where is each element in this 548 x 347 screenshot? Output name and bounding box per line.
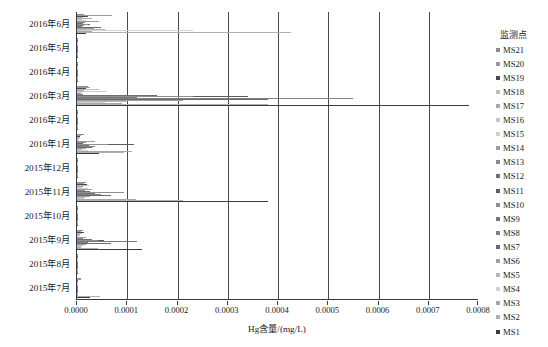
bar-group	[77, 12, 478, 36]
legend-swatch-icon	[496, 118, 500, 122]
legend-item[interactable]: MS4	[496, 284, 520, 295]
legend-item-label: MS15	[503, 129, 524, 139]
legend-item[interactable]: MS21	[496, 44, 524, 55]
legend-swatch-icon	[496, 330, 500, 334]
legend: 监测点 MS21MS20MS19MS18MS17MS16MS15MS14MS13…	[492, 28, 548, 340]
legend-title: 监测点	[500, 28, 527, 41]
legend-item[interactable]: MS18	[496, 86, 524, 97]
y-axis-label: 2015年11月	[25, 187, 70, 197]
y-axis-label: 2015年10月	[24, 211, 70, 221]
legend-item-label: MS4	[503, 284, 520, 294]
legend-item-label: MS1	[503, 327, 520, 337]
legend-item[interactable]: MS2	[496, 312, 520, 323]
bar-group	[77, 36, 478, 60]
legend-swatch-icon	[496, 62, 500, 66]
legend-item-label: MS9	[503, 214, 520, 224]
legend-item-label: MS2	[503, 312, 520, 322]
bar-group	[77, 156, 478, 180]
y-axis-label: 2016年2月	[29, 115, 70, 125]
plot-area	[76, 12, 478, 300]
legend-swatch-icon	[496, 160, 500, 164]
legend-item[interactable]: MS8	[496, 227, 520, 238]
legend-item[interactable]: MS1	[496, 326, 520, 337]
legend-item-label: MS5	[503, 270, 520, 280]
legend-item[interactable]: MS6	[496, 256, 520, 267]
legend-item-label: MS18	[503, 87, 524, 97]
legend-item-label: MS14	[503, 143, 524, 153]
legend-item-label: MS8	[503, 228, 520, 238]
bar-group	[77, 180, 478, 204]
bar-group	[77, 276, 478, 300]
legend-swatch-icon	[496, 48, 500, 52]
legend-item-label: MS3	[503, 298, 520, 308]
legend-item[interactable]: MS9	[496, 213, 520, 224]
legend-swatch-icon	[496, 90, 500, 94]
legend-item[interactable]: MS14	[496, 143, 524, 154]
bar	[77, 32, 291, 33]
x-tick-label: 0.0005	[315, 305, 339, 315]
bar	[77, 33, 86, 34]
bar	[77, 297, 90, 298]
legend-item-label: MS17	[503, 101, 524, 111]
legend-swatch-icon	[496, 104, 500, 108]
bar	[77, 153, 99, 154]
bar-group	[77, 108, 478, 132]
legend-item-label: MS7	[503, 242, 520, 252]
legend-item[interactable]: MS7	[496, 241, 520, 252]
y-axis-category-labels: 2016年6月2016年5月2016年4月2016年3月2016年2月2016年…	[0, 12, 74, 300]
legend-item[interactable]: MS15	[496, 129, 524, 140]
bar-group	[77, 60, 478, 84]
legend-item[interactable]: MS20	[496, 58, 524, 69]
legend-swatch-icon	[496, 146, 500, 150]
y-axis-label: 2016年5月	[29, 43, 70, 53]
hg-content-bar-chart: 2016年6月2016年5月2016年4月2016年3月2016年2月2016年…	[0, 0, 548, 347]
x-tick-label: 0.0002	[165, 305, 189, 315]
bar-group	[77, 252, 478, 276]
legend-swatch-icon	[496, 301, 500, 305]
legend-swatch-icon	[496, 259, 500, 263]
x-tick-label: 0.0008	[466, 305, 490, 315]
legend-item[interactable]: MS16	[496, 115, 524, 126]
legend-swatch-icon	[496, 315, 500, 319]
legend-swatch-icon	[496, 245, 500, 249]
y-axis-label: 2016年1月	[29, 139, 70, 149]
x-tick-label: 0.0004	[265, 305, 289, 315]
bar	[77, 105, 469, 106]
legend-swatch-icon	[496, 231, 500, 235]
legend-swatch-icon	[496, 273, 500, 277]
x-axis-ticks: 0.00000.00010.00020.00030.00040.00050.00…	[76, 301, 478, 315]
y-axis-label: 2015年8月	[29, 259, 70, 269]
legend-item-label: MS10	[503, 200, 524, 210]
x-axis-title: Hg含量/(mg/L)	[76, 321, 478, 335]
legend-swatch-icon	[496, 287, 500, 291]
bar	[77, 201, 268, 202]
legend-swatch-icon	[496, 132, 500, 136]
y-axis-label: 2016年4月	[29, 67, 70, 77]
legend-item-label: MS16	[503, 115, 524, 125]
x-tick-label: 0.0007	[416, 305, 440, 315]
y-axis-label: 2015年9月	[29, 235, 70, 245]
y-axis-label: 2015年7月	[29, 283, 70, 293]
x-tick-label: 0.0003	[215, 305, 239, 315]
legend-swatch-icon	[496, 203, 500, 207]
legend-item-label: MS12	[503, 171, 524, 181]
legend-item-label: MS13	[503, 157, 524, 167]
legend-item[interactable]: MS5	[496, 270, 520, 281]
legend-item-label: MS11	[503, 186, 524, 196]
legend-item[interactable]: MS3	[496, 298, 520, 309]
legend-item[interactable]: MS19	[496, 72, 524, 83]
legend-item-label: MS6	[503, 256, 520, 266]
y-axis-label: 2015年12月	[24, 163, 70, 173]
legend-item[interactable]: MS12	[496, 171, 524, 182]
legend-swatch-icon	[496, 189, 500, 193]
legend-item[interactable]: MS13	[496, 157, 524, 168]
bar-group	[77, 132, 478, 156]
legend-item[interactable]: MS10	[496, 199, 524, 210]
x-tick-label: 0.0001	[114, 305, 138, 315]
legend-item[interactable]: MS17	[496, 100, 524, 111]
legend-swatch-icon	[496, 76, 500, 80]
bar-group	[77, 204, 478, 228]
y-axis-label: 2016年6月	[29, 19, 70, 29]
legend-item[interactable]: MS11	[496, 185, 524, 196]
y-axis-label: 2016年3月	[29, 91, 70, 101]
